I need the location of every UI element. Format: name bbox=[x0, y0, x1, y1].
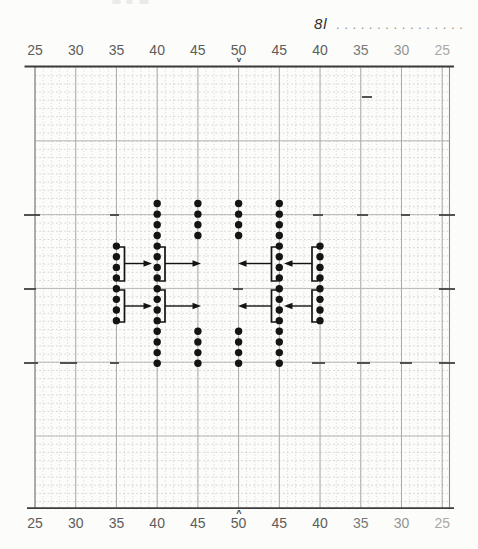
data-dot bbox=[113, 285, 120, 292]
data-dot bbox=[154, 221, 161, 228]
data-dot bbox=[235, 210, 242, 217]
graph-svg bbox=[0, 0, 478, 549]
data-dot bbox=[113, 296, 120, 303]
data-dot bbox=[316, 285, 323, 292]
data-dot bbox=[316, 253, 323, 260]
data-dot bbox=[276, 253, 283, 260]
data-dot bbox=[113, 264, 120, 271]
data-dot bbox=[316, 296, 323, 303]
data-dot bbox=[154, 338, 161, 345]
data-dot bbox=[276, 349, 283, 356]
data-dot bbox=[154, 232, 161, 239]
data-dot bbox=[276, 360, 283, 367]
arrow-head-icon bbox=[193, 303, 202, 309]
data-dot bbox=[276, 221, 283, 228]
data-dot bbox=[276, 210, 283, 217]
data-dot bbox=[194, 232, 201, 239]
arrow-head-icon bbox=[284, 260, 293, 266]
axis-label: 50 bbox=[226, 515, 252, 531]
data-dot bbox=[194, 221, 201, 228]
data-dot bbox=[154, 264, 161, 271]
data-dot bbox=[276, 200, 283, 207]
axis-label: 45 bbox=[185, 515, 211, 531]
relation-arrow bbox=[165, 303, 201, 309]
relation-arrow bbox=[125, 303, 153, 309]
axis-label: 45 bbox=[266, 515, 292, 531]
data-dot bbox=[154, 242, 161, 249]
data-dot bbox=[235, 221, 242, 228]
data-dot bbox=[113, 317, 120, 324]
data-dot bbox=[276, 306, 283, 313]
axis-label: 40 bbox=[307, 515, 333, 531]
data-dot bbox=[276, 317, 283, 324]
data-dot bbox=[194, 360, 201, 367]
dot-group-bracket bbox=[272, 290, 278, 322]
relation-arrow bbox=[238, 260, 272, 266]
data-dot bbox=[154, 200, 161, 207]
scanned-chart-page: 8l ................ 25303540455045403530… bbox=[0, 0, 478, 549]
data-dot bbox=[194, 200, 201, 207]
data-dot bbox=[235, 328, 242, 335]
arrow-head-icon bbox=[193, 260, 202, 266]
data-dot bbox=[154, 360, 161, 367]
data-dot bbox=[276, 338, 283, 345]
data-dot bbox=[276, 264, 283, 271]
data-dot bbox=[194, 210, 201, 217]
axis-label: 25 bbox=[429, 515, 455, 531]
data-dot bbox=[316, 264, 323, 271]
axis-label: 30 bbox=[63, 515, 89, 531]
axis-label: 30 bbox=[388, 515, 414, 531]
axis-label: 35 bbox=[348, 515, 374, 531]
dot-group-bracket bbox=[159, 290, 165, 322]
dot-group-bracket bbox=[119, 290, 125, 322]
data-dot bbox=[276, 232, 283, 239]
data-dot bbox=[194, 328, 201, 335]
arrow-head-icon bbox=[238, 303, 247, 309]
axis-label: 35 bbox=[103, 515, 129, 531]
arrow-head-icon bbox=[238, 260, 247, 266]
data-dot bbox=[194, 338, 201, 345]
data-dot bbox=[276, 296, 283, 303]
data-dot bbox=[154, 306, 161, 313]
data-dot bbox=[235, 200, 242, 207]
data-dot bbox=[235, 349, 242, 356]
data-dot bbox=[154, 328, 161, 335]
data-dot bbox=[235, 360, 242, 367]
data-dot bbox=[154, 210, 161, 217]
relation-arrow bbox=[125, 260, 153, 266]
data-dot bbox=[154, 349, 161, 356]
data-dot bbox=[316, 306, 323, 313]
dot-group-bracket bbox=[312, 290, 318, 322]
data-dot bbox=[235, 338, 242, 345]
relation-arrow bbox=[284, 260, 312, 266]
data-dot bbox=[113, 242, 120, 249]
arrow-head-icon bbox=[284, 303, 293, 309]
data-dot bbox=[154, 317, 161, 324]
data-dot bbox=[276, 285, 283, 292]
axis-label: 40 bbox=[144, 515, 170, 531]
relation-arrow bbox=[284, 303, 312, 309]
data-dot bbox=[154, 253, 161, 260]
data-dot bbox=[194, 349, 201, 356]
data-dot bbox=[276, 242, 283, 249]
arrow-head-icon bbox=[144, 260, 153, 266]
relation-arrow bbox=[165, 260, 201, 266]
data-dot bbox=[154, 296, 161, 303]
axis-label: 25 bbox=[22, 515, 48, 531]
data-dot bbox=[316, 242, 323, 249]
data-dot bbox=[113, 306, 120, 313]
data-dot bbox=[276, 328, 283, 335]
data-dot bbox=[316, 317, 323, 324]
data-dot bbox=[154, 285, 161, 292]
data-dot bbox=[235, 232, 242, 239]
data-dot bbox=[113, 253, 120, 260]
arrow-head-icon bbox=[144, 303, 153, 309]
